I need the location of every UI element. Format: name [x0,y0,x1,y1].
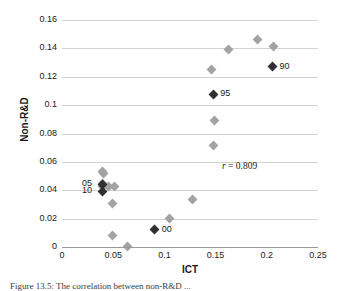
data-point [107,231,117,241]
x-axis-tick: 0.2 [247,251,287,263]
y-axis-tick-label: 0.16 [0,15,57,24]
data-point-90 [267,62,277,72]
plot-surface: 9095000510 [62,20,318,247]
data-point [108,198,118,208]
gridline [62,77,318,78]
scatter-plot-figure: 9095000510 00.020.040.060.080.10.120.140… [0,0,339,291]
gridline [62,162,318,163]
y-axis-tick-label: 0 [0,242,57,251]
y-axis-tick: 0.02 [0,214,57,224]
y-axis-title: Non-R&D [19,75,30,165]
x-axis-tick-label: 0.15 [196,251,236,260]
gridline [62,219,318,220]
x-axis-tick: 0.1 [144,251,184,263]
data-point [209,140,219,150]
gridline [62,134,318,135]
data-point [209,116,219,126]
x-axis-tick: 0.25 [298,251,338,263]
data-point-95 [208,89,218,99]
x-axis-tick-label: 0 [42,251,82,260]
data-point [187,195,197,205]
data-point-label: 10 [82,186,92,195]
x-axis-tick: 0.15 [196,251,236,263]
data-point-00 [150,225,160,235]
correlation-value: = 0.809 [226,161,257,171]
y-axis-tick-label: 0.04 [0,185,57,194]
data-point [165,214,175,224]
y-axis-tick-label: 0.14 [0,43,57,52]
chart-area: 9095000510 00.020.040.060.080.10.120.140… [0,0,339,268]
x-axis-tick: 0.05 [93,251,133,263]
x-axis-tick-label: 0.25 [298,251,338,260]
y-axis-tick: 0.04 [0,185,57,195]
y-axis-tick-label: 0.02 [0,214,57,223]
data-point-label: 00 [162,225,172,234]
data-point [252,35,262,45]
x-axis-tick-label: 0.2 [247,251,287,260]
data-point-label: 90 [279,62,289,71]
x-axis-title: ICT [62,264,318,275]
y-axis-tick: 0.16 [0,15,57,25]
correlation-annotation: r = 0.809 [222,161,257,171]
y-axis-tick: 0.14 [0,43,57,53]
x-axis-tick-label: 0.05 [93,251,133,260]
x-axis-line [62,247,318,248]
figure-caption: Figure 13.5: The correlation between non… [10,281,330,291]
data-point-label: 95 [220,89,230,98]
gridline [62,20,318,21]
gridline [62,48,318,49]
gridline [62,105,318,106]
data-point [223,45,233,55]
data-point [207,65,217,75]
x-axis-tick-label: 0.1 [144,251,184,260]
x-axis-tick: 0 [42,251,82,263]
data-point [269,42,279,52]
